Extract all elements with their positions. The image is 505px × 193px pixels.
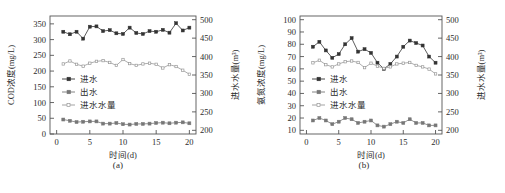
data-point <box>415 64 417 66</box>
x-axis-tick-label: 5 <box>88 137 92 147</box>
y-axis-left-tick-label: 30 <box>288 101 297 111</box>
y-axis-left-tick-label: 100 <box>283 15 296 25</box>
legend-marker-1 <box>317 90 321 94</box>
data-point <box>108 122 111 125</box>
data-point <box>415 121 418 124</box>
y-axis-left-tick-label: 50 <box>38 113 47 123</box>
data-point <box>89 62 91 64</box>
x-axis-tick-label: 0 <box>304 137 308 147</box>
x-axis-tick-label: 20 <box>431 137 440 147</box>
data-point <box>108 29 111 32</box>
data-point <box>148 122 151 125</box>
data-point <box>109 61 111 63</box>
data-point <box>102 122 105 125</box>
x-axis-tick-label: 15 <box>152 137 161 147</box>
data-point <box>75 63 77 65</box>
legend-label-1: 出水 <box>80 87 98 97</box>
data-point <box>331 123 334 126</box>
data-point <box>95 120 98 123</box>
data-point <box>389 66 391 68</box>
y-axis-left-tick-label: 40 <box>288 88 297 98</box>
data-point <box>135 31 138 34</box>
data-point <box>102 59 104 61</box>
data-point <box>325 63 327 65</box>
data-point <box>95 25 98 28</box>
y-axis-right-tick-label: 400 <box>200 52 213 62</box>
x-axis-title: 时间(d) <box>109 150 137 160</box>
data-point <box>161 28 164 31</box>
x-axis-tick-label: 0 <box>55 137 59 147</box>
data-point <box>338 63 340 65</box>
data-point <box>168 31 171 34</box>
data-point <box>428 68 430 70</box>
x-axis-title: 时间(d) <box>357 150 385 160</box>
data-point <box>409 61 411 63</box>
data-point <box>382 125 385 128</box>
data-point <box>82 120 85 123</box>
data-point <box>155 121 158 124</box>
data-point <box>82 65 84 67</box>
legend-label-2: 进水水量 <box>330 100 366 110</box>
x-axis-tick-label: 10 <box>119 137 128 147</box>
y-axis-right-tick-label: 200 <box>446 125 459 135</box>
data-point <box>62 118 65 121</box>
chart-a-canvas: 0501001502002503003502002503003504004505… <box>0 0 252 170</box>
data-point <box>115 64 117 66</box>
figure-row: 0501001502002503003502002503003504004505… <box>0 0 505 193</box>
y-axis-right-tick-label: 250 <box>200 107 213 117</box>
data-point <box>168 122 171 125</box>
data-point <box>344 61 346 63</box>
data-point <box>434 73 436 75</box>
legend-label-0: 进水 <box>80 74 98 84</box>
data-point <box>188 73 190 75</box>
data-point <box>389 62 392 65</box>
data-point <box>69 60 71 62</box>
data-point <box>122 58 124 60</box>
y-axis-left-tick-label: 70 <box>288 52 297 62</box>
y-axis-left-tick-label: 20 <box>288 113 297 123</box>
data-point <box>62 63 64 65</box>
data-point <box>344 117 347 120</box>
data-point <box>311 45 314 48</box>
y-axis-left-tick-label: 60 <box>288 64 297 74</box>
y-axis-left-tick-label: 0 <box>42 129 46 139</box>
plot-frame <box>300 16 442 134</box>
panel-b-caption: (b) <box>264 160 464 170</box>
data-point <box>148 62 150 64</box>
y-axis-right-tick-label: 350 <box>446 70 459 80</box>
data-point <box>331 66 333 68</box>
data-point <box>141 122 144 125</box>
data-point <box>155 63 157 65</box>
data-point <box>318 117 321 120</box>
data-point <box>350 60 352 62</box>
y-axis-left-tick-label: 10 <box>288 125 297 135</box>
legend-label-1: 出水 <box>330 87 348 97</box>
data-point <box>128 26 131 29</box>
data-point <box>161 121 164 124</box>
data-point <box>408 39 411 42</box>
data-point <box>357 61 359 63</box>
data-point <box>337 53 340 56</box>
data-point <box>434 61 437 64</box>
data-point <box>363 48 366 51</box>
y-axis-right-tick-label: 400 <box>446 52 459 62</box>
y-axis-right-title: 进水水量(m³) <box>230 49 240 100</box>
data-point <box>402 121 405 124</box>
data-point <box>88 25 91 28</box>
y-axis-right-tick-label: 200 <box>200 125 213 135</box>
y-axis-left-tick-label: 150 <box>33 82 46 92</box>
y-axis-left-tick-label: 300 <box>33 35 46 45</box>
x-axis-tick-label: 5 <box>337 137 341 147</box>
x-axis-tick-label: 20 <box>185 137 194 147</box>
data-point <box>395 55 398 58</box>
y-axis-right-title: 进水水量(m³) <box>476 49 486 100</box>
data-point <box>312 62 314 64</box>
y-axis-right-tick-label: 300 <box>446 88 459 98</box>
data-point <box>75 30 78 33</box>
y-axis-left-tick-label: 80 <box>288 39 297 49</box>
data-point <box>175 22 178 25</box>
data-point <box>357 50 360 53</box>
data-point <box>421 66 423 68</box>
data-point <box>396 63 398 65</box>
data-point <box>376 65 378 67</box>
